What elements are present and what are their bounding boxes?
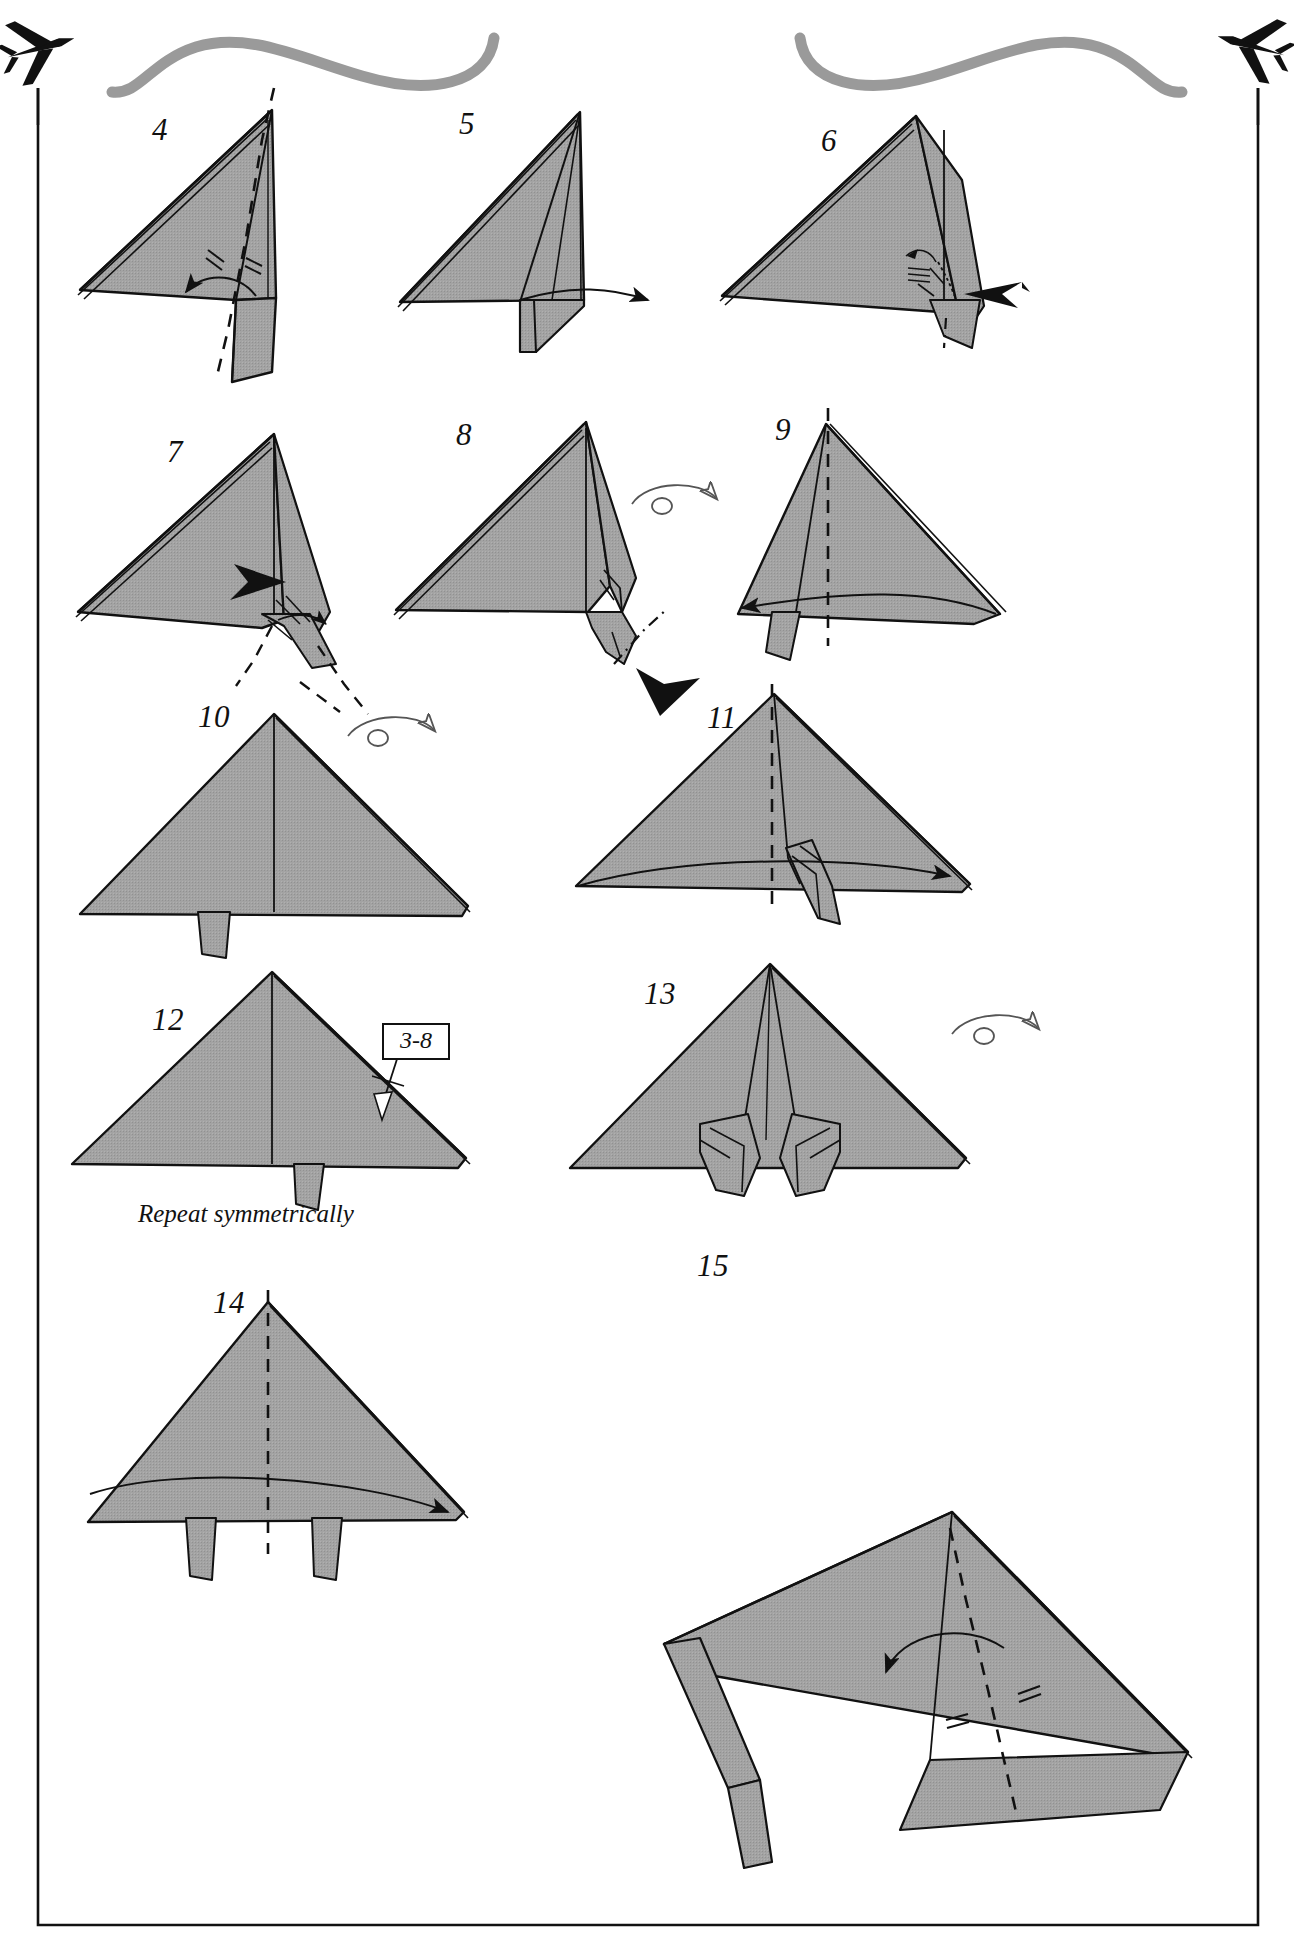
airplane-icon-left <box>0 7 83 91</box>
step-4-figure <box>78 88 276 382</box>
step-number-8: 8 <box>456 417 472 453</box>
step-number-4: 4 <box>152 112 168 148</box>
header-ribbon <box>112 38 1182 92</box>
step-11-figure <box>576 684 972 924</box>
step-number-12: 12 <box>152 1002 184 1038</box>
step-5-figure <box>398 112 648 352</box>
step-13-figure <box>570 964 970 1196</box>
step-7-figure <box>76 434 368 714</box>
step-6-figure <box>720 116 1030 348</box>
step-number-5: 5 <box>459 106 475 142</box>
step-number-6: 6 <box>821 123 837 159</box>
step-10-figure <box>80 714 470 958</box>
step-number-13: 13 <box>644 976 676 1012</box>
step-number-9: 9 <box>775 412 791 448</box>
repeat-symmetrically-caption: Repeat symmetrically <box>138 1200 354 1228</box>
step-number-11: 11 <box>707 700 737 736</box>
airplane-icon-right <box>1209 5 1294 89</box>
push-arrow-step8 <box>636 668 700 716</box>
diagram-canvas <box>0 0 1294 1940</box>
valley-fold-line-step7 <box>236 626 272 686</box>
step-number-10: 10 <box>198 699 230 735</box>
turn-over-icon-step8 <box>632 485 716 514</box>
turn-over-icon-step13 <box>952 1015 1038 1044</box>
step-12-figure <box>72 972 470 1210</box>
step-number-15: 15 <box>697 1248 729 1284</box>
step-15-figure <box>664 1512 1192 1868</box>
flow-dashes-step7-to-10 <box>300 682 340 712</box>
repeat-steps-box: 3-8 <box>382 1023 450 1060</box>
origami-instruction-page: 4 5 6 7 8 9 10 11 12 13 14 15 3-8 Repeat… <box>0 0 1294 1940</box>
step-number-7: 7 <box>167 434 183 470</box>
step-14-figure <box>88 1290 468 1580</box>
step-8-figure <box>394 422 700 716</box>
step-number-14: 14 <box>213 1285 245 1321</box>
turn-over-icon-step10 <box>348 717 434 746</box>
